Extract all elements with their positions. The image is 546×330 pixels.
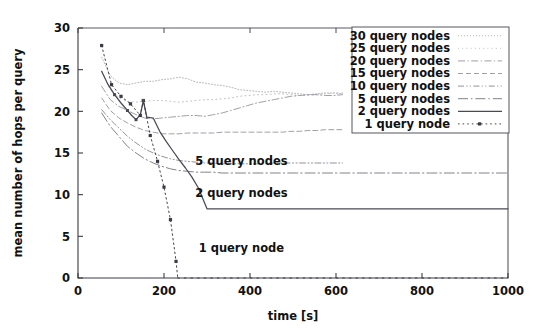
y-tick-label: 25 [54,63,70,77]
plot-annotation: 5 query nodes [195,154,288,168]
chart-legend: 30 query nodes25 query nodes20 query nod… [350,27,509,133]
data-marker [169,218,172,221]
data-marker [119,95,122,98]
data-marker [174,260,177,263]
data-marker [126,109,129,112]
data-marker [129,102,132,105]
x-tick-label: 1000 [492,284,524,298]
y-tick-label: 15 [54,146,70,160]
data-marker [113,93,116,96]
plot-annotation: 2 query nodes [195,186,288,200]
line-chart: 051015202530 02004006008001000 5 query n… [0,0,546,330]
legend-label-7: 1 query node [364,117,450,131]
data-marker [110,83,113,86]
plot-annotation: 1 query node [199,241,285,255]
x-tick-label: 0 [74,284,82,298]
x-tick-label: 600 [324,284,348,298]
data-marker [156,160,159,163]
data-marker [149,134,152,137]
legend-marker-7 [478,122,481,125]
y-tick-label: 30 [54,21,70,35]
chart-figure: 051015202530 02004006008001000 5 query n… [0,0,546,330]
y-tick-label: 10 [54,188,70,202]
data-marker [142,99,145,102]
y-tick-label: 20 [54,105,70,119]
data-marker [139,114,142,117]
x-tick-label: 200 [152,284,176,298]
x-axis-title: time [s] [268,309,319,323]
y-tick-label: 0 [62,271,70,285]
x-tick-label: 400 [238,284,262,298]
y-axis-title: mean number of hops per query [11,48,25,257]
y-tick-label: 5 [62,230,70,244]
x-tick-label: 800 [410,284,434,298]
data-marker [162,186,165,189]
data-marker [135,118,138,121]
data-marker [100,44,103,47]
